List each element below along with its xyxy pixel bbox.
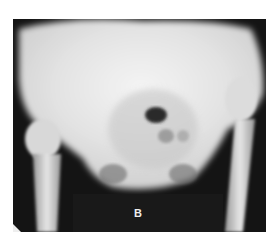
pelvis-radiograph — [13, 19, 266, 232]
panel-label: B — [134, 207, 142, 219]
xray-image: B — [13, 19, 266, 232]
